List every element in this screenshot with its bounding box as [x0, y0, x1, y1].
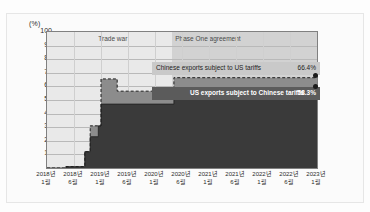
series-area-us-exports [47, 89, 317, 168]
series-layer [47, 32, 317, 168]
annotation-us-exports-value: 58.3% [298, 89, 316, 96]
x-axis-tick-label: 2023년1월 [299, 170, 333, 186]
annotation-chinese-exports-label: Chinese exports subject to US tariffs [156, 64, 261, 71]
annotation-us-exports-label: US exports subject to Chinese tariffs [190, 89, 304, 96]
plot-area: Trade war Phase One agreement [46, 31, 318, 169]
y-axis-unit-label: (%) [29, 20, 41, 27]
annotation-chinese-exports-value: 66.4% [298, 64, 316, 71]
annotation-us-exports: US exports subject to Chinese tariffs 58… [152, 87, 320, 100]
endpoint-marker-chinese-exports [313, 73, 318, 78]
annotation-chinese-exports: Chinese exports subject to US tariffs 66… [152, 62, 320, 75]
endpoint-marker-us-exports [313, 84, 318, 89]
chart-figure: (%) 0102030405060708090100 2018년1월2018년6… [0, 0, 370, 212]
